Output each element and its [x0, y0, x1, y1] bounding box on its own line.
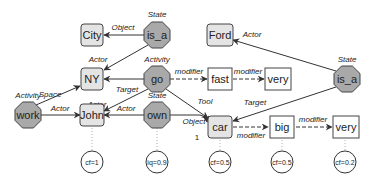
node-big[interactable]: big — [270, 116, 294, 138]
node-car[interactable]: car — [208, 116, 232, 138]
node-own[interactable]: own — [144, 102, 170, 128]
svg-text:iq=0.9: iq=0.9 — [147, 159, 166, 167]
label-modifier-very-bottom: modifier — [299, 115, 328, 124]
node-work[interactable]: work — [15, 102, 41, 128]
annotation-john: cf=1 — [81, 151, 103, 173]
label-actor-john-work: Actor — [50, 104, 70, 113]
node-fast[interactable]: fast — [208, 68, 232, 90]
svg-text:is_a: is_a — [337, 73, 358, 85]
label-object-car: Object — [182, 117, 206, 126]
svg-text:NY: NY — [84, 73, 100, 85]
semantic-graph-diagram: Object Actor Target Actor modifier modif… — [0, 0, 371, 185]
label-modifier-very-top: modifier — [234, 67, 263, 76]
node-ford[interactable]: Ford — [207, 24, 233, 46]
svg-text:cf=0.5: cf=0.5 — [272, 159, 291, 166]
svg-text:cf=0.5: cf=0.5 — [210, 159, 229, 166]
svg-text:own: own — [147, 109, 167, 121]
node-go[interactable]: go — [144, 66, 170, 92]
annotation-car: cf=0.5 — [209, 151, 231, 173]
svg-text:very: very — [268, 73, 289, 85]
svg-text:car: car — [212, 121, 228, 133]
node-very-bottom[interactable]: very — [333, 116, 359, 138]
node-ny[interactable]: NY — [81, 68, 103, 90]
label-modifier-big: modifier — [237, 131, 266, 140]
svg-text:very: very — [336, 121, 357, 133]
edge-actor-ny — [104, 45, 148, 70]
label-modifier-fast: modifier — [175, 67, 204, 76]
role-is-a-top: State — [148, 10, 167, 19]
role-work: Activity — [14, 91, 41, 100]
role-labels: State Activity State Activity State — [14, 10, 357, 100]
node-is-a-right[interactable]: is_a — [334, 66, 360, 92]
label-target-ny: Target — [116, 85, 139, 94]
svg-text:work: work — [15, 109, 40, 121]
label-actor-ny: Actor — [88, 55, 108, 64]
svg-text:Ford: Ford — [209, 29, 232, 41]
node-city[interactable]: City — [81, 24, 103, 46]
svg-text:go: go — [151, 73, 163, 85]
label-actor-ford: Actor — [242, 30, 262, 39]
annotation-circles: cf=1 iq=0.9 cf=0.5 cf=0.5 cf=0.2 — [81, 151, 356, 173]
annotation-own: iq=0.9 — [146, 151, 168, 173]
role-go: Activity — [143, 55, 170, 64]
annotation-big: cf=0.5 — [271, 151, 293, 173]
svg-text:cf=1: cf=1 — [85, 159, 99, 166]
node-is-a-top[interactable]: is_a — [144, 22, 170, 48]
svg-text:City: City — [83, 29, 102, 41]
label-target-car: Target — [244, 98, 267, 107]
node-john[interactable]: John — [80, 104, 104, 126]
svg-text:John: John — [80, 109, 104, 121]
label-space-ny: Space — [39, 90, 62, 99]
node-very-top[interactable]: very — [265, 68, 291, 90]
svg-text:cf=0.2: cf=0.2 — [335, 159, 354, 166]
label-object-city: Object — [111, 23, 135, 32]
label-tool-car: Tool — [198, 97, 213, 106]
annotation-very-bottom: cf=0.2 — [334, 151, 356, 173]
label-actor-john-own: Actor — [116, 104, 136, 113]
svg-text:big: big — [275, 121, 290, 133]
svg-text:fast: fast — [211, 73, 229, 85]
svg-text:is_a: is_a — [147, 29, 168, 41]
label-cardinality-car: 1 — [195, 133, 200, 142]
role-is-a-right: State — [338, 55, 357, 64]
